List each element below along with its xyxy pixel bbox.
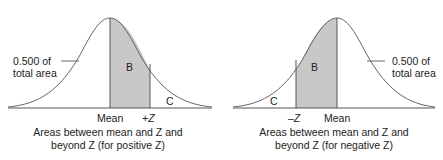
right-half-area-line2: total area — [392, 67, 436, 79]
right-caption-line2: beyond Z (for negative Z) — [234, 139, 434, 152]
left-plus-z-label: +Z — [142, 112, 155, 124]
left-half-area-label: 0.500 of total area — [13, 55, 57, 79]
left-caption: Areas between mean and Z and beyond Z (f… — [8, 126, 208, 152]
left-mean-label: Mean — [97, 112, 123, 124]
left-region-b-label: B — [126, 61, 133, 73]
left-caption-line1: Areas between mean and Z and — [8, 126, 208, 139]
right-region-c-label: C — [270, 95, 278, 107]
right-region-b-label: B — [311, 61, 318, 73]
left-half-area-line1: 0.500 of — [13, 55, 57, 67]
right-minus-z-label: –Z — [288, 112, 300, 124]
left-caption-line2: beyond Z (for positive Z) — [8, 139, 208, 152]
left-region-c-label: C — [166, 95, 174, 107]
right-caption: Areas between mean and Z and beyond Z (f… — [234, 126, 434, 152]
right-half-area-label: 0.500 of total area — [392, 55, 436, 79]
left-half-area-line2: total area — [13, 67, 57, 79]
right-half-area-line1: 0.500 of — [392, 55, 436, 67]
right-caption-line1: Areas between mean and Z and — [234, 126, 434, 139]
right-mean-label: Mean — [324, 112, 350, 124]
